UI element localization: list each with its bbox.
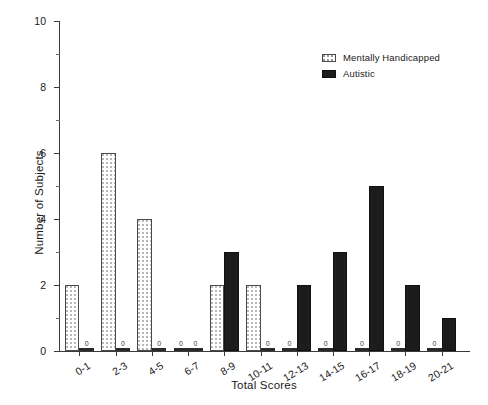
bar-6-7-mh: [174, 348, 188, 351]
x-axis-title: Total Scores: [58, 379, 470, 391]
legend-item-mentally-handicapped: Mentally Handicapped: [322, 52, 440, 63]
y-tick-6: 6: [54, 153, 60, 154]
x-tick-14-15: [333, 352, 334, 356]
bar-zero-label: 0: [174, 340, 188, 347]
x-tick-12-13: [297, 352, 298, 356]
bar-0-1-mh: [65, 285, 79, 351]
x-tick-label-8-9: 8-9: [218, 359, 237, 377]
bar-8-9-mh: [210, 285, 224, 351]
bar-zero-label: 0: [116, 340, 130, 347]
legend-label: Autistic: [343, 68, 375, 79]
bar-zero-label: 0: [318, 340, 332, 347]
y-axis-title: Number of Subjects: [26, 0, 52, 405]
bar-zero-label: 0: [152, 340, 166, 347]
y-tick-0: 0: [54, 351, 60, 352]
y-tick-minor-5: [56, 186, 60, 187]
bar-zero-label: 0: [79, 340, 93, 347]
y-tick-minor-9: [56, 54, 60, 55]
bar-zero-label: 0: [188, 340, 202, 347]
x-tick-20-21: [442, 352, 443, 356]
y-tick-minor-7: [56, 120, 60, 121]
bar-zero-label: 0: [355, 340, 369, 347]
bar-18-19-au: [405, 285, 419, 351]
x-tick-label-4-5: 4-5: [146, 359, 165, 377]
legend-swatch-icon: [322, 54, 336, 62]
y-tick-4: 4: [54, 219, 60, 220]
bar-zero-label: 0: [427, 340, 441, 347]
bar-10-11-mh: [246, 285, 260, 351]
bar-4-5-mh: [137, 219, 151, 351]
y-tick-10: 10: [54, 21, 60, 22]
legend-swatch-icon: [322, 70, 336, 78]
bar-zero-label: 0: [261, 340, 275, 347]
x-tick-0-1: [79, 352, 80, 356]
y-tick-label: 8: [40, 81, 46, 93]
chart-figure: Number of Subjects Total Scores 0246810 …: [0, 0, 488, 405]
chart-legend: Mentally HandicappedAutistic: [322, 52, 440, 84]
x-tick-4-5: [152, 352, 153, 356]
bar-12-13-au: [297, 285, 311, 351]
bar-14-15-au: [333, 252, 347, 351]
legend-label: Mentally Handicapped: [343, 52, 440, 63]
y-tick-minor-3: [56, 252, 60, 253]
x-tick-label-2-3: 2-3: [110, 359, 129, 377]
y-tick-label: 4: [40, 213, 46, 225]
y-tick-label: 6: [40, 147, 46, 159]
y-tick-label: 10: [34, 15, 46, 27]
bar-2-3-mh: [101, 153, 115, 351]
x-axis-line: [59, 351, 470, 352]
bar-10-11-au: [261, 348, 275, 351]
bar-2-3-au: [116, 348, 130, 351]
bar-zero-label: 0: [391, 340, 405, 347]
bar-20-21-au: [442, 318, 456, 351]
y-tick-label: 0: [40, 345, 46, 357]
y-tick-minor-1: [56, 318, 60, 319]
bar-16-17-au: [369, 186, 383, 351]
bar-8-9-au: [224, 252, 238, 351]
bar-20-21-mh: [427, 348, 441, 351]
bar-12-13-mh: [282, 348, 296, 351]
legend-item-autistic: Autistic: [322, 68, 440, 79]
x-tick-8-9: [224, 352, 225, 356]
y-tick-label: 2: [40, 279, 46, 291]
bar-18-19-mh: [391, 348, 405, 351]
y-tick-2: 2: [54, 285, 60, 286]
y-tick-8: 8: [54, 87, 60, 88]
x-tick-2-3: [116, 352, 117, 356]
bar-0-1-au: [79, 348, 93, 351]
bar-zero-label: 0: [282, 340, 296, 347]
bar-16-17-mh: [355, 348, 369, 351]
bar-6-7-au: [188, 348, 202, 351]
x-tick-label-6-7: 6-7: [182, 359, 201, 377]
x-tick-label-0-1: 0-1: [73, 359, 92, 377]
bar-4-5-au: [152, 348, 166, 351]
x-tick-16-17: [369, 352, 370, 356]
bar-14-15-mh: [318, 348, 332, 351]
x-tick-10-11: [261, 352, 262, 356]
x-tick-18-19: [405, 352, 406, 356]
x-tick-6-7: [188, 352, 189, 356]
